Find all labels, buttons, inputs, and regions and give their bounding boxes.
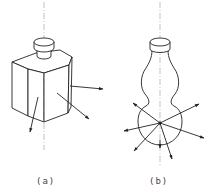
bottle-cap-b (150, 38, 170, 53)
arrow-icon (124, 123, 160, 131)
arrow-icon (70, 86, 103, 89)
bottle-cap-a (34, 38, 54, 59)
arrow-icon (160, 104, 199, 123)
arrow-icon (160, 123, 172, 159)
radial-arrows-b (124, 103, 204, 159)
diagram-canvas (0, 0, 214, 194)
gourd-body-outline (138, 50, 182, 145)
hexagonal-prism (12, 50, 72, 122)
arrow-icon (134, 123, 160, 151)
panel-b-gourd-bottle (124, 2, 204, 165)
panel-label-a: (a) (36, 176, 55, 186)
panel-label-b: (b) (149, 176, 168, 186)
panel-a-hexagonal-bottle (12, 2, 103, 150)
